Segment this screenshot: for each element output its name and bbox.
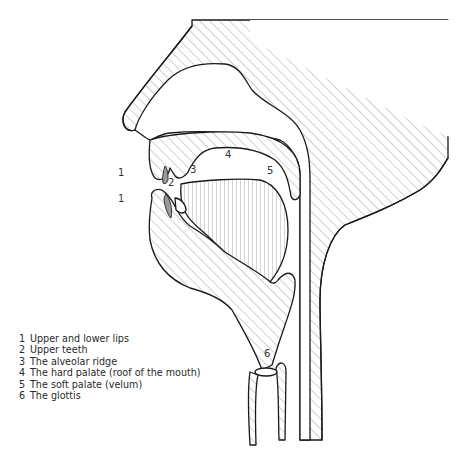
larynx-back — [276, 363, 286, 440]
label-4-hard-palate: 4 — [225, 149, 231, 160]
legend-item: 3The alveolar ridge — [19, 356, 201, 367]
label-2-upper-teeth: 2 — [168, 177, 174, 188]
larynx-front — [249, 372, 259, 445]
label-1-lower-lip: 1 — [118, 193, 124, 204]
label-1-upper-lip: 1 — [118, 167, 124, 178]
label-5-soft-palate: 5 — [267, 165, 273, 176]
legend-item: 5The soft palate (velum) — [19, 379, 201, 390]
legend-item: 4The hard palate (roof of the mouth) — [19, 367, 201, 378]
label-3-alveolar-ridge: 3 — [190, 164, 196, 175]
legend-item: 6The glottis — [19, 390, 201, 401]
legend: 1Upper and lower lips 2Upper teeth 3The … — [19, 333, 201, 401]
glottis — [255, 368, 277, 376]
vocal-tract-diagram: 1 2 3 4 5 1 6 — [0, 0, 458, 473]
legend-item: 1Upper and lower lips — [19, 333, 201, 344]
legend-item: 2Upper teeth — [19, 344, 201, 355]
label-6-glottis: 6 — [264, 348, 270, 359]
